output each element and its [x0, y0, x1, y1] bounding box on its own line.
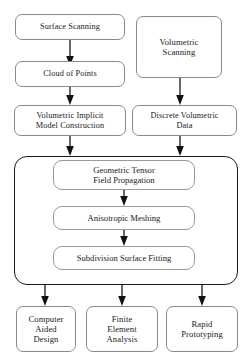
edge-volumetric-scanning-to-discrete-volumetric [176, 78, 184, 105]
edge-core-group-to-computer-aided-design [41, 285, 49, 306]
node-anisotropic-meshing[interactable]: Anisotropic Meshing [53, 206, 195, 230]
node-discrete-volumetric-data[interactable]: Discrete Volumetric Data [132, 105, 237, 136]
node-surface-scanning[interactable]: Surface Scanning [15, 14, 125, 40]
edge-cloud-of-points-to-volumetric-implicit [66, 87, 74, 105]
node-rapid-prototyping[interactable]: Rapid Prototyping [166, 306, 238, 352]
edge-discrete-volumetric-to-core-group [176, 136, 184, 156]
node-computer-aided-design[interactable]: Computer Aided Design [16, 306, 76, 352]
node-cloud-of-points[interactable]: Cloud of Points [15, 61, 125, 87]
edge-core-group-to-finite-element-analysis [118, 285, 126, 306]
edge-volumetric-implicit-to-core-group [66, 136, 74, 156]
flowchart-canvas: Surface Scanning Volumetric Scanning Clo… [0, 0, 252, 364]
node-geometric-tensor-field-propagation[interactable]: Geometric Tensor Field Propagation [53, 160, 195, 190]
node-subdivision-surface-fitting[interactable]: Subdivision Surface Fitting [53, 246, 195, 270]
node-volumetric-scanning[interactable]: Volumetric Scanning [136, 16, 222, 78]
node-finite-element-analysis[interactable]: Finite Element Analysis [86, 306, 158, 352]
node-volumetric-implicit-model-construction[interactable]: Volumetric Implicit Model Construction [14, 105, 126, 136]
edge-core-group-to-rapid-prototyping [198, 285, 206, 306]
